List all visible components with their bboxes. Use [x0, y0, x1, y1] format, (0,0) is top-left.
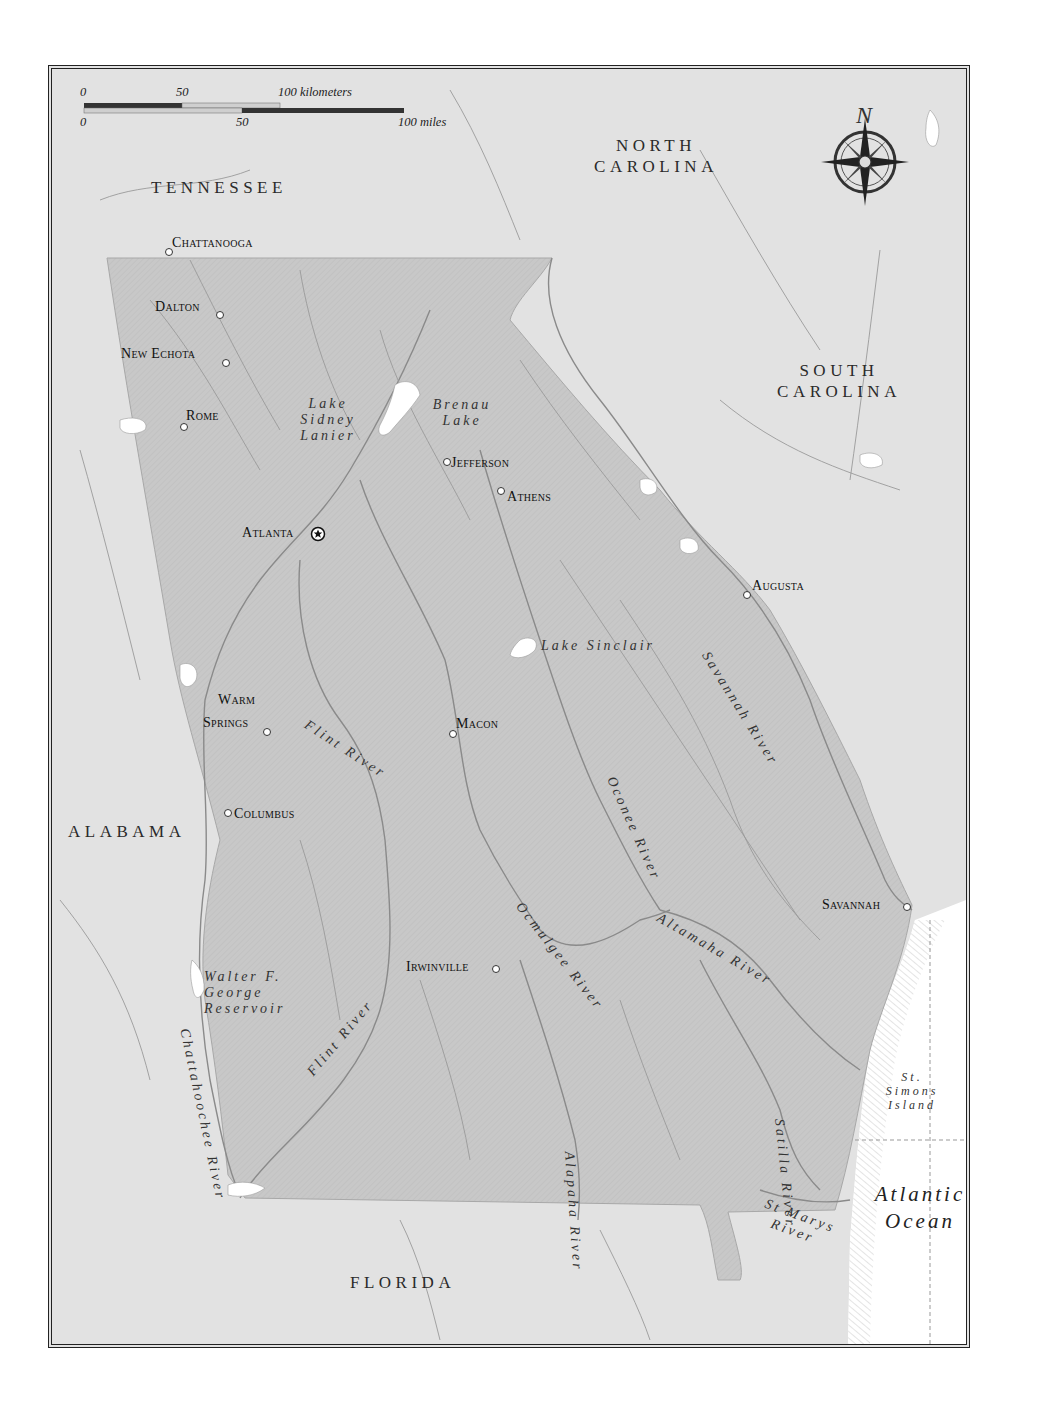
state-label-alabama: ALABAMA	[68, 823, 185, 840]
city-label-dalton: Dalton	[155, 300, 200, 314]
water-label-lake-sinclair: Lake Sinclair	[541, 638, 655, 654]
state-label-south-carolina-2: CAROLINA	[769, 383, 909, 400]
water-label-brenau-lake: Brenau Lake	[422, 397, 502, 429]
city-dot-columbus	[224, 809, 232, 817]
city-dot-dalton	[216, 311, 224, 319]
nc-lake-shape	[926, 110, 939, 146]
capital-star-icon	[312, 528, 325, 541]
scale-bar	[84, 103, 404, 113]
city-dot-rome	[180, 423, 188, 431]
city-dot-irwinville	[492, 965, 500, 973]
scale-mi-50: 50	[236, 116, 249, 129]
weiss-lake-shape	[120, 418, 146, 434]
city-label-new-echota: New Echota	[121, 347, 195, 361]
city-label-columbus: Columbus	[234, 807, 295, 821]
city-dot-warm-springs	[263, 728, 271, 736]
city-label-savannah: Savannah	[822, 898, 880, 912]
city-label-jefferson: Jefferson	[451, 456, 509, 470]
city-label-athens: Athens	[507, 490, 551, 504]
water-label-lake-sidney-lanier: Lake Sidney Lanier	[288, 396, 368, 444]
walter-f-george-shape	[191, 960, 204, 998]
scale-km-0: 0	[80, 86, 86, 99]
city-label-macon: Macon	[456, 717, 498, 731]
water-label-atlantic-ocean: Atlantic Ocean	[860, 1181, 970, 1236]
scale-km-100: 100 kilometers	[278, 86, 352, 99]
state-label-north-carolina-1: NORTH	[586, 137, 726, 154]
city-dot-jefferson	[443, 458, 451, 466]
scale-km-50: 50	[176, 86, 189, 99]
state-label-south-carolina-1: SOUTH	[769, 362, 909, 379]
hartwell-lake-shape	[640, 479, 657, 495]
city-label-irwinville: Irwinville	[406, 960, 469, 974]
city-label-warm-springs-1: Warm	[218, 693, 255, 707]
map-canvas	[52, 69, 966, 1344]
city-label-chattanooga: Chattanooga	[172, 236, 253, 250]
sc-lake-shape	[860, 453, 882, 468]
compass-north-label: N	[856, 103, 872, 127]
state-label-tennessee: TENNESSEE	[151, 179, 287, 196]
scale-mi-100: 100 miles	[398, 116, 446, 129]
scale-mi-0: 0	[80, 116, 86, 129]
city-label-warm-springs-2: Springs	[203, 716, 248, 730]
city-dot-macon	[449, 730, 457, 738]
city-label-atlanta: Atlanta	[242, 526, 293, 540]
georgia-state	[107, 258, 912, 1280]
city-dot-savannah	[903, 903, 911, 911]
thurmond-lake-shape	[680, 538, 698, 554]
compass-rose-icon	[821, 118, 909, 206]
water-label-walter-f-george-reservoir: Walter F. George Reservoir	[204, 969, 304, 1017]
city-dot-new-echota	[222, 359, 230, 367]
water-label-st-simons-island: St. Simons Island	[872, 1071, 952, 1112]
state-label-florida: FLORIDA	[350, 1274, 455, 1291]
map-frame: 0 50 100 kilometers 0 50 100 miles N TEN…	[48, 65, 970, 1348]
city-label-rome: Rome	[186, 409, 219, 423]
city-label-augusta: Augusta	[752, 579, 804, 593]
city-dot-athens	[497, 487, 505, 495]
state-label-north-carolina-2: CAROLINA	[586, 158, 726, 175]
city-dot-augusta	[743, 591, 751, 599]
